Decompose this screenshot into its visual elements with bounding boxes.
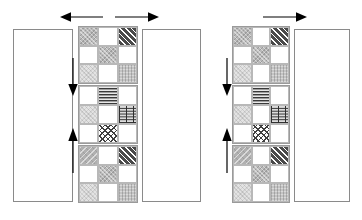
tile-r1c3[interactable]	[118, 86, 137, 105]
tile-r2c2[interactable]	[252, 105, 271, 124]
tile-r3c2[interactable]	[98, 124, 117, 143]
tile-r2c3[interactable]	[270, 46, 289, 65]
tile-r2c2[interactable]	[252, 46, 271, 65]
tile-r2c2[interactable]	[98, 165, 117, 184]
tile-r1c2[interactable]	[98, 146, 117, 165]
arrow-right-icon	[263, 10, 307, 24]
tile-r3c3[interactable]	[118, 124, 137, 143]
tile-r3c3[interactable]	[118, 183, 137, 202]
tile-r3c1[interactable]	[233, 124, 252, 143]
tile-r2c2[interactable]	[98, 46, 117, 65]
tile-r1c1[interactable]	[233, 27, 252, 46]
tile-r1c3[interactable]	[270, 27, 289, 46]
tile-r1c3[interactable]	[270, 86, 289, 105]
tile-r2c2[interactable]	[252, 165, 271, 184]
block-bottom[interactable]	[78, 145, 138, 203]
tile-r3c1[interactable]	[79, 124, 98, 143]
block-middle[interactable]	[78, 85, 138, 144]
tile-r1c2[interactable]	[252, 27, 271, 46]
bar-left-inner	[142, 29, 201, 202]
arrow-left-icon	[60, 10, 104, 24]
tile-r1c1[interactable]	[233, 146, 252, 165]
bar-right-outer	[294, 29, 350, 202]
tile-r2c1[interactable]	[233, 105, 252, 124]
tile-r2c3[interactable]	[118, 105, 137, 124]
block-top[interactable]	[232, 26, 290, 84]
tile-r2c1[interactable]	[79, 105, 98, 124]
tile-r3c1[interactable]	[79, 183, 98, 202]
tile-r1c1[interactable]	[79, 27, 98, 46]
tile-r1c3[interactable]	[118, 27, 137, 46]
tile-r3c3[interactable]	[270, 124, 289, 143]
tile-stack-left	[78, 26, 138, 203]
tile-r3c2[interactable]	[252, 124, 271, 143]
tile-r3c1[interactable]	[79, 64, 98, 83]
tile-r2c1[interactable]	[233, 46, 252, 65]
block-top[interactable]	[78, 26, 138, 84]
arrow-right-icon	[115, 10, 159, 24]
tile-r1c2[interactable]	[98, 86, 117, 105]
tile-r2c1[interactable]	[79, 46, 98, 65]
tile-r1c2[interactable]	[98, 27, 117, 46]
tile-r3c2[interactable]	[252, 183, 271, 202]
tile-r3c3[interactable]	[118, 64, 137, 83]
tile-r3c2[interactable]	[98, 183, 117, 202]
tile-r3c1[interactable]	[233, 183, 252, 202]
bar-left-outer	[13, 29, 73, 202]
tile-r1c3[interactable]	[118, 146, 137, 165]
tile-r2c3[interactable]	[118, 46, 137, 65]
block-middle[interactable]	[232, 85, 290, 144]
tile-r3c2[interactable]	[98, 64, 117, 83]
tile-r3c1[interactable]	[233, 64, 252, 83]
tile-r1c2[interactable]	[252, 146, 271, 165]
block-bottom[interactable]	[232, 145, 290, 203]
figure-canvas	[0, 0, 362, 220]
tile-r1c2[interactable]	[252, 86, 271, 105]
tile-r2c3[interactable]	[270, 105, 289, 124]
tile-r3c2[interactable]	[252, 64, 271, 83]
tile-r2c3[interactable]	[270, 165, 289, 184]
tile-r2c3[interactable]	[118, 165, 137, 184]
tile-r1c1[interactable]	[233, 86, 252, 105]
tile-r2c2[interactable]	[98, 105, 117, 124]
tile-r2c1[interactable]	[79, 165, 98, 184]
tile-stack-right	[232, 26, 290, 203]
tile-r1c1[interactable]	[79, 86, 98, 105]
tile-r3c3[interactable]	[270, 183, 289, 202]
tile-r1c1[interactable]	[79, 146, 98, 165]
tile-r2c1[interactable]	[233, 165, 252, 184]
tile-r3c3[interactable]	[270, 64, 289, 83]
tile-r1c3[interactable]	[270, 146, 289, 165]
